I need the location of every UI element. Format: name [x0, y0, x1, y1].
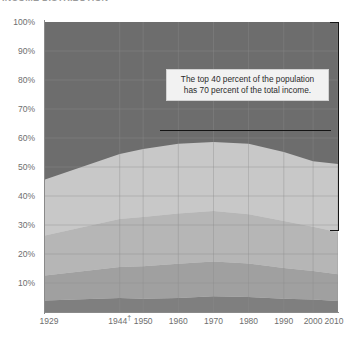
stacked-area-svg [45, 22, 338, 312]
y-axis-tick-70: 70% [18, 105, 35, 114]
y-axis-tick-80: 80% [18, 76, 35, 85]
x-axis-tick-1970: 1970 [204, 316, 223, 327]
x-axis-tick-1980: 1980 [239, 316, 258, 327]
chart-container: INCOME DISTRIBUTION 100%90%80%70%60%50%4… [0, 0, 361, 341]
x-axis-tick-1950: 1950 [134, 316, 153, 327]
annotation-line-1: The top 40 percent of the population [173, 74, 322, 85]
plot-area [45, 22, 338, 312]
x-axis-tick-2010: 2010 [325, 316, 344, 327]
y-axis-tick-90: 90% [18, 47, 35, 56]
annotation-leader-line [160, 130, 331, 131]
x-axis: 19291944†1950196019701980199020002010 [0, 316, 361, 336]
x-axis-tick-1990: 1990 [274, 316, 293, 327]
annotation-bracket [330, 22, 339, 231]
y-axis-tick-30: 30% [18, 221, 35, 230]
x-axis-line [44, 312, 339, 313]
annotation-line-2: has 70 percent of the total income. [173, 85, 322, 96]
y-axis-tick-100: 100% [13, 18, 35, 27]
x-axis-tick-1960: 1960 [169, 316, 188, 327]
y-axis-tick-40: 40% [18, 192, 35, 201]
y-axis-tick-20: 20% [18, 250, 35, 259]
annotation-callout: The top 40 percent of the population has… [166, 69, 329, 101]
x-axis-tick-1944: 1944† [108, 316, 131, 327]
x-axis-tick-2000: 2000 [304, 316, 323, 327]
y-axis-tick-60: 60% [18, 134, 35, 143]
y-axis: 100%90%80%70%60%50%40%30%20%10% [0, 0, 43, 341]
y-axis-tick-10: 10% [18, 279, 35, 288]
y-axis-tick-50: 50% [18, 163, 35, 172]
x-axis-tick-1929: 1929 [40, 316, 59, 327]
